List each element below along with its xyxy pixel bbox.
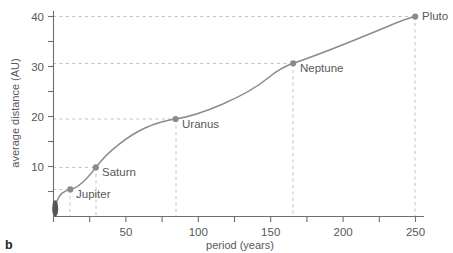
point-label-uranus: Uranus xyxy=(182,118,219,130)
point-labels: Jupiter Saturn Uranus Neptune Pluto xyxy=(76,10,448,200)
y-tick-labels: 40 30 20 10 xyxy=(31,11,44,173)
point-label-pluto: Pluto xyxy=(422,10,448,22)
data-series-curve xyxy=(54,17,415,216)
point-neptune xyxy=(290,60,296,66)
x-tick-label-100: 100 xyxy=(189,226,208,238)
planet-period-distance-chart: 40 30 20 10 50 100 150 200 250 xyxy=(0,0,453,253)
x-tick-label-200: 200 xyxy=(334,226,353,238)
x-axis-ticks xyxy=(54,217,416,223)
panel-label: b xyxy=(5,238,13,252)
point-uranus xyxy=(173,116,179,122)
gridlines xyxy=(53,17,415,217)
x-tick-label-150: 150 xyxy=(261,226,280,238)
point-label-saturn: Saturn xyxy=(102,166,136,178)
figure-panel-b: 40 30 20 10 50 100 150 200 250 xyxy=(0,0,453,253)
point-inner-planets-blob xyxy=(52,200,58,216)
y-tick-label-10: 10 xyxy=(31,161,44,173)
point-jupiter xyxy=(67,186,73,192)
x-tick-label-50: 50 xyxy=(120,226,133,238)
y-tick-label-30: 30 xyxy=(31,61,44,73)
y-axis-title: average distance (AU) xyxy=(9,58,21,167)
x-axis-title: period (years) xyxy=(206,239,274,251)
point-label-jupiter: Jupiter xyxy=(76,188,111,200)
x-tick-label-250: 250 xyxy=(406,226,425,238)
x-tick-labels: 50 100 150 200 250 xyxy=(120,226,426,238)
y-axis-ticks xyxy=(48,17,54,192)
y-tick-label-40: 40 xyxy=(31,11,44,23)
curve-path xyxy=(54,17,415,216)
point-label-neptune: Neptune xyxy=(300,62,343,74)
point-pluto xyxy=(412,14,418,20)
y-tick-label-20: 20 xyxy=(31,111,44,123)
inner-planets-cluster xyxy=(52,200,58,216)
point-saturn xyxy=(93,164,99,170)
